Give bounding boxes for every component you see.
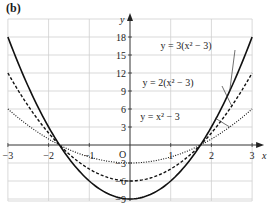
- y-tick-label: 18: [116, 32, 126, 43]
- y-axis-label: y: [119, 14, 125, 25]
- y-tick-label: 3: [121, 122, 126, 133]
- y-tick-label: −3: [115, 158, 126, 169]
- curve-label: y = 3(x² − 3): [161, 40, 212, 52]
- y-tick-label: −6: [115, 176, 126, 187]
- curve-label: y = x² − 3: [140, 111, 179, 122]
- y-tick-label: 15: [116, 50, 126, 61]
- x-tick-label: 3: [250, 150, 255, 161]
- y-tick-label: 12: [116, 68, 126, 79]
- y-axis-arrow-icon: [127, 13, 133, 21]
- x-axis-label: x: [261, 150, 267, 161]
- curve-labels: y = 3(x² − 3)y = 2(x² − 3)y = x² − 3: [140, 40, 235, 127]
- curve-label: y = 2(x² − 3): [143, 77, 194, 89]
- y-tick-label: −9: [115, 194, 126, 205]
- x-tick-label: −2: [43, 150, 54, 161]
- x-axis-arrow-icon: [256, 142, 264, 148]
- x-tick-label: 1: [168, 150, 173, 161]
- y-tick-label: 9: [121, 86, 126, 97]
- x-tick-label: 2: [209, 150, 214, 161]
- axes: xyO: [8, 13, 267, 201]
- x-tick-label: −1: [84, 150, 95, 161]
- parabola-chart: xyO −3−2−1123181512963−3−6−9 y = 3(x² − …: [0, 0, 270, 212]
- x-tick-label: −3: [3, 150, 14, 161]
- y-tick-label: 6: [121, 104, 126, 115]
